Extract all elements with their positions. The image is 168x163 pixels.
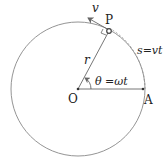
angle-arc: [85, 78, 91, 89]
circular-motion-diagram: O A P r v θ =ωt s=vt: [0, 0, 168, 163]
point-a: [142, 88, 145, 91]
label-v: v: [92, 1, 99, 15]
label-p: P: [105, 13, 113, 27]
label-arc: s=vt: [137, 44, 163, 57]
label-angle: θ =ωt: [95, 75, 128, 88]
point-p: [107, 29, 112, 34]
label-a: A: [143, 93, 153, 107]
point-o: [77, 88, 80, 91]
label-o: O: [68, 92, 78, 106]
label-r: r: [84, 53, 91, 67]
right-angle-marker: [101, 29, 106, 35]
